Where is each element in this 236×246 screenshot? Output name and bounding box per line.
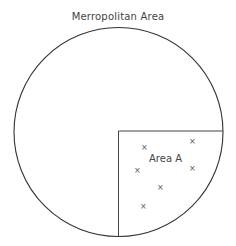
marker-x: × [140, 202, 147, 211]
area-a-label: Area A [149, 153, 182, 164]
area-a-markers: × × × × × × [134, 137, 196, 211]
metropolitan-area-diagram: Area A × × × × × × [0, 0, 236, 246]
marker-x: × [189, 137, 196, 146]
marker-x: × [141, 143, 148, 152]
marker-x: × [157, 183, 164, 192]
marker-x: × [134, 166, 141, 175]
marker-x: × [189, 164, 196, 173]
